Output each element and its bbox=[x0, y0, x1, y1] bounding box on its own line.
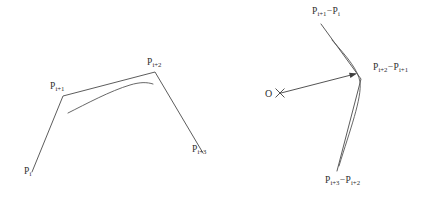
label-origin-o: O bbox=[265, 89, 272, 99]
label-subscript: i+2 bbox=[378, 66, 387, 73]
label-subscript: i+3 bbox=[330, 179, 339, 186]
label-difference-vector-3: Pi+3−Pi+2 bbox=[325, 176, 360, 186]
label-point-p-i-plus-2: Pi+2 bbox=[147, 58, 162, 68]
label-subscript: i+1 bbox=[55, 85, 64, 92]
figure-canvas: Pi Pi+1 Pi+2 Pi+3 O Pi+1−Pi Pi+2−Pi+1 Pi… bbox=[0, 0, 432, 201]
label-point-p-i: Pi bbox=[24, 167, 31, 177]
origin-vector-arrow-shaft bbox=[281, 74, 355, 93]
origin-cross-icon bbox=[276, 89, 284, 97]
label-difference-vector-2: Pi+2−Pi+1 bbox=[373, 63, 408, 73]
label-subscript: i bbox=[29, 170, 31, 177]
label-subscript-2: i bbox=[338, 10, 340, 17]
label-point-p-i-plus-3: Pi+3 bbox=[192, 145, 207, 155]
label-subscript: i+1 bbox=[317, 10, 326, 17]
bezier-curve-path bbox=[68, 83, 153, 113]
label-subscript: i+3 bbox=[197, 148, 206, 155]
hodograph-polygon-path bbox=[321, 24, 361, 171]
label-subscript-2: i+2 bbox=[351, 179, 360, 186]
label-point-p-i-plus-1: Pi+1 bbox=[50, 82, 65, 92]
label-difference-vector-1: Pi+1−Pi bbox=[312, 7, 340, 17]
label-subscript-2: i+1 bbox=[399, 66, 408, 73]
figure-vector-layer bbox=[0, 0, 432, 201]
right-panel-group bbox=[276, 24, 361, 171]
label-subscript: i+2 bbox=[152, 61, 161, 68]
